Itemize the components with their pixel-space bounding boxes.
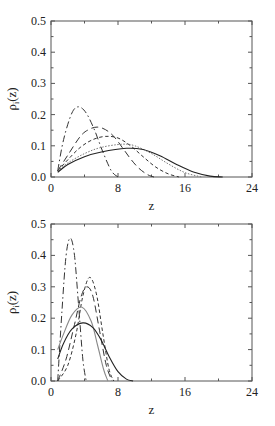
y-tick-label: 0.2 [31, 108, 46, 122]
x-tick-label: 8 [115, 385, 121, 399]
x-tick-label: 8 [115, 181, 121, 195]
y-tick-label: 0.0 [31, 170, 46, 184]
series-short-dash [58, 277, 114, 381]
y-tick-label: 0.2 [31, 311, 46, 325]
x-tick-label: 16 [179, 385, 191, 399]
series-dash-dot [58, 107, 118, 177]
x-tick-label: 24 [246, 385, 258, 399]
y-tick-label: 0.3 [31, 280, 46, 294]
x-axis-label: z [149, 198, 155, 213]
bottom-panel: 0.00.10.20.30.40.5081624zρi(z) [4, 217, 258, 417]
series-long-dash [58, 287, 112, 381]
x-tick-label: 24 [246, 181, 258, 195]
y-axis-label: ρi(z) [4, 87, 21, 110]
y-tick-label: 0.4 [31, 248, 46, 262]
series-solid [58, 148, 223, 177]
y-tick-label: 0.1 [31, 139, 46, 153]
series-solid [58, 323, 133, 381]
y-axis-label: ρi(z) [4, 291, 21, 314]
y-tick-label: 0.0 [31, 374, 46, 388]
y-tick-label: 0.1 [31, 343, 46, 357]
series-dash-dot [58, 238, 86, 381]
x-tick-label: 0 [48, 181, 54, 195]
y-tick-label: 0.4 [31, 45, 46, 59]
y-tick-label: 0.5 [31, 217, 46, 231]
series-long-dash [58, 127, 154, 177]
y-tick-label: 0.5 [31, 14, 46, 28]
plot-frame [51, 224, 252, 381]
x-tick-label: 16 [179, 181, 191, 195]
top-panel: 0.00.10.20.30.40.5081624zρi(z) [4, 14, 258, 213]
chart-figure: 0.00.10.20.30.40.5081624zρi(z) 0.00.10.2… [0, 0, 275, 426]
series-dotted-gray [58, 144, 202, 177]
x-tick-label: 0 [48, 385, 54, 399]
x-axis-label: z [149, 402, 155, 417]
y-tick-label: 0.3 [31, 76, 46, 90]
